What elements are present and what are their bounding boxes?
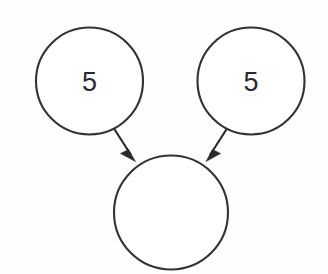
edge-right-to-result [206,127,228,162]
arrowhead-icon [121,150,136,162]
node-left-operand[interactable]: 5 [36,28,143,135]
node-left-operand-label: 5 [82,67,97,97]
arrowhead-icon [206,150,221,162]
node-right-operand-label: 5 [243,67,258,97]
diagram-canvas: 5 5 [0,0,328,274]
node-result-shape[interactable] [114,156,228,270]
diagram-svg: 5 5 [0,0,328,274]
edge-left-to-result [113,127,136,162]
node-result[interactable] [114,156,228,270]
node-right-operand[interactable]: 5 [198,28,305,135]
